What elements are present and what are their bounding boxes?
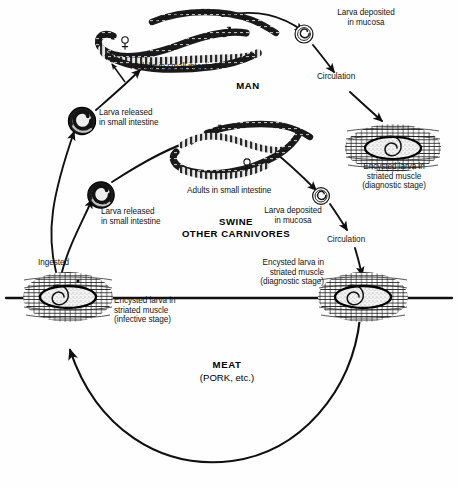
label-encysted-swine: Encysted larva in striated muscle (diagn… bbox=[218, 258, 324, 287]
label-meat: MEAT(PORK, etc.) bbox=[167, 358, 287, 384]
label-larva-released-lower: Larva released in small intestine bbox=[101, 207, 161, 226]
female-symbol-man bbox=[122, 37, 128, 49]
adults-swine-illustration bbox=[173, 124, 310, 176]
label-adults-man: Adults in small intestine bbox=[134, 62, 218, 72]
label-meat-sub: (PORK, etc.) bbox=[200, 372, 254, 383]
label-larva-deposited-man: Larva deposited in mucosa bbox=[318, 8, 414, 27]
arrow-ingest-to-man bbox=[51, 132, 74, 272]
arrow-larva-to-adults-man bbox=[96, 70, 140, 110]
label-encysted-infective: Encysted larva in striated muscle (infec… bbox=[114, 296, 176, 325]
arrow-circulation-to-muscle-swine bbox=[355, 248, 362, 275]
larva-released-upper-illustration bbox=[68, 107, 95, 134]
label-circulation-man: Circulation bbox=[317, 72, 355, 82]
larva-mucosa-swine-illustration bbox=[313, 188, 330, 205]
life-cycle-diagram: Adults in small intestine MAN Larva depo… bbox=[0, 0, 458, 488]
arrow-circulation-to-muscle-man bbox=[350, 92, 382, 121]
arrow-mucosa-to-circulation-swine bbox=[330, 204, 347, 230]
label-larva-released-upper: Larva released in small intestine bbox=[99, 108, 159, 127]
encysted-larva-infective-illustration bbox=[22, 272, 114, 322]
encysted-larva-swine-illustration bbox=[317, 272, 409, 322]
larva-mucosa-man-illustration bbox=[295, 25, 313, 43]
diagram-artwork bbox=[0, 0, 458, 488]
arrow-meat-cycle bbox=[70, 318, 360, 462]
larva-released-lower-illustration bbox=[88, 182, 114, 208]
label-circulation-swine: Circulation bbox=[327, 235, 365, 245]
label-ingested: Ingested bbox=[38, 258, 69, 268]
label-meat-bold: MEAT bbox=[213, 359, 242, 370]
label-encysted-man: Encysted larva in striated muscle (diagn… bbox=[344, 162, 444, 191]
label-adults-swine: Adults in small intestine bbox=[187, 186, 271, 196]
label-larva-deposited-swine: Larva deposited in mucosa bbox=[258, 206, 328, 225]
arrow-mucosa-to-circulation-man bbox=[313, 45, 334, 72]
host-label-man: MAN bbox=[218, 80, 278, 92]
